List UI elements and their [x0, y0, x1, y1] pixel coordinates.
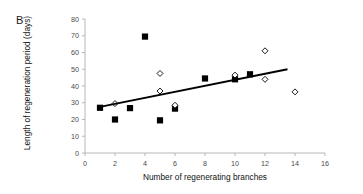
- data-point-filled-square: [157, 117, 163, 123]
- x-tick-label: 4: [143, 159, 147, 168]
- y-tick-label: 40: [71, 82, 79, 91]
- data-point-open-diamond: [292, 89, 298, 95]
- x-tick-label: 8: [203, 159, 207, 168]
- x-tick-label: 2: [113, 159, 117, 168]
- x-tick-label: 14: [291, 159, 299, 168]
- data-point-open-diamond: [262, 76, 268, 82]
- y-axis-group: 01020304050607080: [71, 15, 85, 158]
- y-tick-label: 10: [71, 132, 79, 141]
- x-tick-label: 10: [231, 159, 239, 168]
- y-tick-label: 70: [71, 31, 79, 40]
- x-tick-label: 12: [261, 159, 269, 168]
- data-point-open-diamond: [262, 48, 268, 54]
- y-tick-label: 80: [71, 15, 79, 24]
- data-point-filled-square: [127, 105, 133, 111]
- y-tick-label: 60: [71, 48, 79, 57]
- data-points-group: [97, 33, 298, 123]
- data-point-open-diamond: [157, 88, 163, 94]
- x-tick-label: 0: [83, 159, 87, 168]
- data-point-filled-square: [142, 33, 148, 39]
- data-point-open-diamond: [157, 70, 163, 76]
- data-point-filled-square: [202, 75, 208, 81]
- y-tick-label: 50: [71, 65, 79, 74]
- y-tick-label: 30: [71, 98, 79, 107]
- trendline: [100, 69, 288, 107]
- figure-panel-b: B Length of regeneration period (days) N…: [0, 0, 363, 194]
- x-tick-label: 16: [321, 159, 329, 168]
- scatter-plot: 01020304050607080 0246810121416: [0, 0, 363, 194]
- x-axis-group: 0246810121416: [83, 153, 329, 168]
- data-point-filled-square: [112, 116, 118, 122]
- y-tick-label: 20: [71, 115, 79, 124]
- x-tick-label: 6: [173, 159, 177, 168]
- trendline-group: [100, 69, 288, 107]
- y-tick-label: 0: [75, 149, 79, 158]
